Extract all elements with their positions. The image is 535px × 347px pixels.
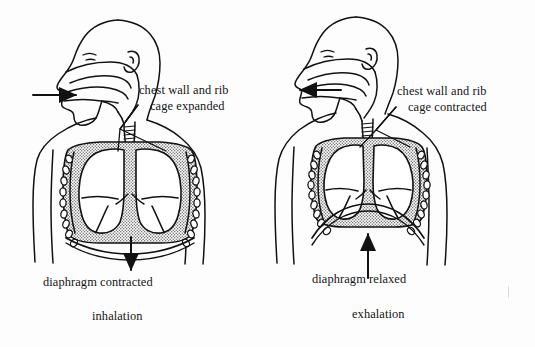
callout-line-2: cage contracted bbox=[397, 100, 527, 116]
breathing-diagram-page: chest wall and rib cage expanded diaphra… bbox=[0, 0, 535, 347]
panel-exhalation: chest wall and rib cage contracted diaph… bbox=[268, 0, 535, 347]
diaphragm-label: diaphragm contracted bbox=[43, 275, 153, 291]
scan-edge-artifact bbox=[508, 286, 509, 298]
inhalation-illustration bbox=[0, 0, 267, 347]
callout-line-1: chest wall and rib bbox=[139, 83, 229, 97]
panel-caption-exhalation: exhalation bbox=[352, 307, 405, 323]
callout-line-1: chest wall and rib bbox=[397, 84, 487, 98]
eye bbox=[321, 51, 334, 58]
panel-inhalation: chest wall and rib cage expanded diaphra… bbox=[0, 0, 267, 347]
head-profile bbox=[295, 17, 398, 122]
exhalation-illustration bbox=[268, 0, 535, 347]
callout-label-chest-wall: chest wall and rib cage expanded bbox=[139, 83, 259, 114]
diaphragm-label: diaphragm relaxed bbox=[312, 272, 406, 288]
callout-line-2: cage expanded bbox=[139, 99, 259, 115]
callout-label-chest-wall: chest wall and rib cage contracted bbox=[397, 84, 527, 115]
panel-caption-inhalation: inhalation bbox=[92, 309, 143, 325]
eye bbox=[83, 54, 96, 61]
